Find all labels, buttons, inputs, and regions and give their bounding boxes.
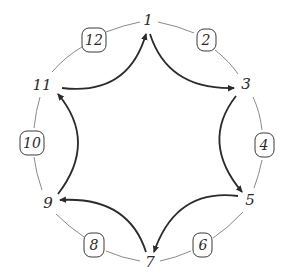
boxed-node-6-label: 6 <box>199 237 208 253</box>
arrow-9-to-11 <box>58 94 78 194</box>
node-5: 5 <box>245 191 255 209</box>
boxed-node-12-label: 12 <box>85 32 103 48</box>
circle-seg-1-2 <box>158 22 194 33</box>
circle-seg-12-1 <box>106 22 140 32</box>
arrow-3-to-5 <box>219 96 242 192</box>
boxed-node-2-label: 2 <box>201 32 211 48</box>
node-9: 9 <box>43 194 53 212</box>
circle-seg-8-9 <box>56 214 84 237</box>
boxed-node-10: 10 <box>20 131 44 155</box>
node-11: 11 <box>32 76 51 94</box>
boxed-node-8: 8 <box>84 233 104 257</box>
arrow-1-to-3 <box>150 34 234 88</box>
boxed-nodes: 2 4 6 8 10 12 <box>20 28 274 257</box>
node-1: 1 <box>143 11 153 29</box>
circle-seg-6-7 <box>160 251 191 261</box>
circle-seg-11-12 <box>52 47 82 72</box>
node-7: 7 <box>145 253 155 271</box>
cycle-diagram: 1 3 5 7 9 11 2 4 6 8 10 12 <box>0 0 290 273</box>
boxed-node-4: 4 <box>255 133 274 157</box>
boxed-node-8-label: 8 <box>90 237 99 253</box>
circle-seg-9-10 <box>34 157 42 190</box>
boxed-node-6: 6 <box>193 233 212 257</box>
outer-circle <box>34 22 262 261</box>
boxed-node-12: 12 <box>82 28 106 52</box>
boxed-node-4-label: 4 <box>259 137 269 153</box>
node-3: 3 <box>241 75 251 93</box>
circle-seg-10-11 <box>34 97 40 128</box>
circle-seg-3-4 <box>253 97 262 130</box>
boxed-node-10-label: 10 <box>23 135 41 151</box>
circle-seg-2-3 <box>215 50 238 74</box>
arrow-cycle <box>58 34 242 252</box>
circle-seg-7-8 <box>106 251 140 261</box>
circle-seg-5-6 <box>213 212 243 238</box>
circle-seg-4-5 <box>254 160 262 188</box>
boxed-node-2: 2 <box>197 29 216 51</box>
